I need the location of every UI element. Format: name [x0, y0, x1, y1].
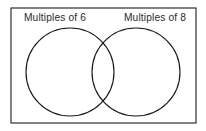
right-set-label: Multiples of 8	[124, 12, 186, 23]
venn-diagram: Multiples of 6 Multiples of 8	[0, 0, 206, 131]
left-set-label: Multiples of 6	[24, 12, 86, 23]
venn-diagram-canvas: Multiples of 6 Multiples of 8	[0, 0, 206, 131]
universal-set-rectangle	[11, 8, 196, 123]
